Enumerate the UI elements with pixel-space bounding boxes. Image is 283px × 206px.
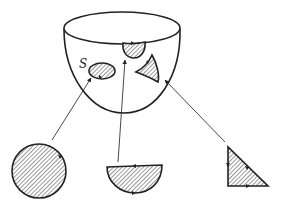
planar-regions: [12, 144, 268, 198]
bowl-rim: [64, 12, 180, 44]
half-disk-region: [107, 165, 162, 193]
arrow-triangle-to-curved-triangle: [165, 80, 225, 142]
disk-region: [12, 144, 66, 198]
triangle-region: [228, 147, 268, 186]
surface-parametrization-diagram: S: [0, 0, 283, 206]
half-disk-patch: [123, 42, 145, 58]
arrow-halfdisk-to-halfdisk: [118, 60, 125, 162]
curved-triangle-patch: [136, 55, 159, 82]
surface-label: S: [79, 57, 87, 71]
arrow-disk-to-ellipse: [52, 78, 91, 140]
ellipse-patch: [89, 63, 115, 79]
